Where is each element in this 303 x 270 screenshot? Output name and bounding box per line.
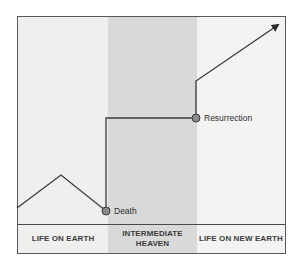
life-timeline-diagram: LIFE ON EARTH INTERMEDIATE HEAVEN LIFE O… [0,0,303,270]
death-label: Death [114,206,137,216]
resurrection-dot-icon [192,114,200,122]
death-dot-icon [102,207,110,215]
timeline-path [0,0,303,270]
resurrection-label: Resurrection [204,113,252,123]
